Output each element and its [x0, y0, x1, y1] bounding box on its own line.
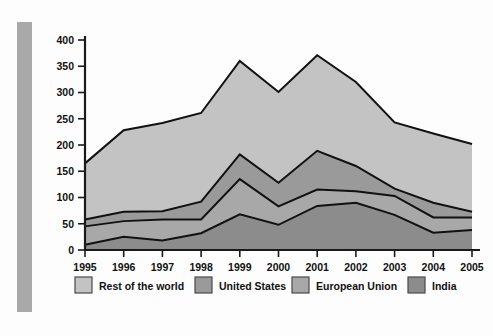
x-axis-tick-label: 2002: [344, 261, 368, 273]
legend-label-european-union: European Union: [316, 280, 397, 292]
y-axis-tick-label: 350: [56, 60, 74, 72]
legend-swatch-european-union[interactable]: [292, 277, 309, 293]
y-axis-tick-label: 200: [56, 139, 74, 151]
x-axis-tick-label: 1999: [228, 261, 252, 273]
x-axis-tick-label: 2005: [460, 261, 484, 273]
legend-swatch-india[interactable]: [408, 277, 425, 293]
legend-label-rest-of-the-world: Rest of the world: [99, 280, 184, 292]
y-axis-tick-label: 50: [62, 218, 74, 230]
stacked-area-chart: 050100150200250300350400 199519961997199…: [40, 18, 485, 323]
x-axis-tick-labels: 1995199619971998199920002001200220032004…: [73, 261, 484, 273]
x-axis-tick-label: 1996: [112, 261, 136, 273]
y-axis-tick-labels: 050100150200250300350400: [56, 34, 74, 256]
x-axis-tick-label: 2004: [422, 261, 446, 273]
x-axis-tick-label: 2001: [306, 261, 330, 273]
y-axis-tick-label: 150: [56, 165, 74, 177]
x-axis-tick-label: 1995: [73, 261, 97, 273]
x-axis-tick-label: 2000: [267, 261, 291, 273]
x-axis-tick-label: 1998: [189, 261, 213, 273]
y-axis-tick-label: 250: [56, 113, 74, 125]
x-axis-tick-label: 1997: [151, 261, 175, 273]
y-axis-tick-label: 400: [56, 34, 74, 46]
x-axis-tick-label: 2003: [383, 261, 407, 273]
plot-area-wrapper: 050100150200250300350400 199519961997199…: [40, 18, 485, 323]
chart-legend: Rest of the worldUnited StatesEuropean U…: [75, 277, 457, 293]
y-axis-tick-label: 300: [56, 86, 74, 98]
legend-swatch-rest-of-the-world[interactable]: [75, 277, 92, 293]
legend-label-united-states: United States: [219, 280, 286, 292]
chart-figure: 050100150200250300350400 199519961997199…: [0, 0, 493, 336]
decorative-side-bar: [17, 22, 32, 312]
legend-label-india: India: [432, 280, 457, 292]
y-axis-tick-label: 100: [56, 191, 74, 203]
legend-swatch-united-states[interactable]: [195, 277, 212, 293]
y-axis-tick-label: 0: [68, 244, 74, 256]
